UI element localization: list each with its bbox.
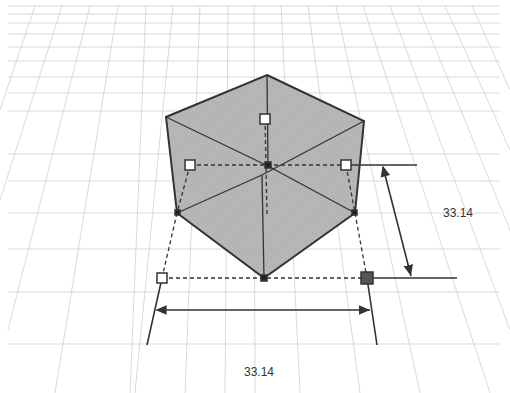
handle-left[interactable] xyxy=(185,160,195,170)
3d-viewport[interactable]: 33.14 33.14 xyxy=(0,0,510,393)
height-dimension-label[interactable]: 33.14 xyxy=(443,206,473,220)
handle-right[interactable] xyxy=(341,160,351,170)
handle-bottom-left[interactable] xyxy=(157,273,167,283)
vertex-right xyxy=(352,210,357,215)
handle-top[interactable] xyxy=(260,114,270,124)
width-dimension[interactable] xyxy=(147,278,377,345)
vertex-left xyxy=(175,210,180,215)
vertex-center xyxy=(265,162,271,168)
vertex-bottom xyxy=(261,275,267,281)
cube-shape[interactable] xyxy=(166,75,364,278)
width-dimension-label[interactable]: 33.14 xyxy=(244,365,274,379)
handle-bottom-right[interactable] xyxy=(361,272,373,284)
height-dimension[interactable] xyxy=(346,165,457,278)
